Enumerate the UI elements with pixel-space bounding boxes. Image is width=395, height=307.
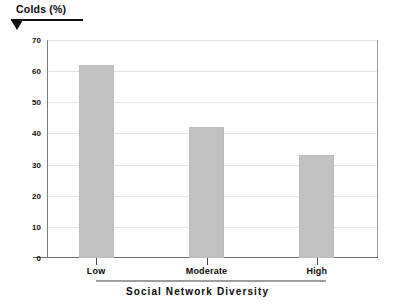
x-axis-tick-mark: [317, 258, 318, 265]
x-axis-tick-mark: [207, 258, 208, 265]
bar-low: [79, 65, 114, 258]
x-axis-tick-label: Moderate: [186, 266, 228, 276]
triangle-down-icon: [11, 20, 23, 30]
bar-series: [47, 40, 378, 258]
x-axis-tick-mark: [96, 258, 97, 265]
x-axis-tick-label: Low: [87, 266, 106, 276]
y-axis-tick-label: 20: [19, 191, 41, 200]
y-axis-tick-label: 50: [19, 98, 41, 107]
y-axis-tick-labels: 010203040506070: [13, 40, 41, 258]
y-axis-tick-label: 40: [19, 129, 41, 138]
chart-figure: Colds (%) 010203040506070 LowModerateHig…: [0, 0, 395, 307]
bar-high: [299, 155, 334, 258]
x-axis-title-rule: [96, 280, 326, 282]
bar-moderate: [189, 127, 224, 258]
y-axis-tick-label: 10: [19, 222, 41, 231]
y-axis-title: Colds (%): [16, 3, 66, 15]
y-axis-tick-label: 30: [19, 160, 41, 169]
x-axis-title: Social Network Diversity: [0, 286, 395, 297]
y-axis-tick-label: 70: [19, 36, 41, 45]
y-axis-title-block: Colds (%): [11, 3, 96, 30]
x-axis-tick-label: High: [306, 266, 327, 276]
y-axis-tick-label: 0: [19, 254, 41, 263]
y-axis-tick-label: 60: [19, 67, 41, 76]
